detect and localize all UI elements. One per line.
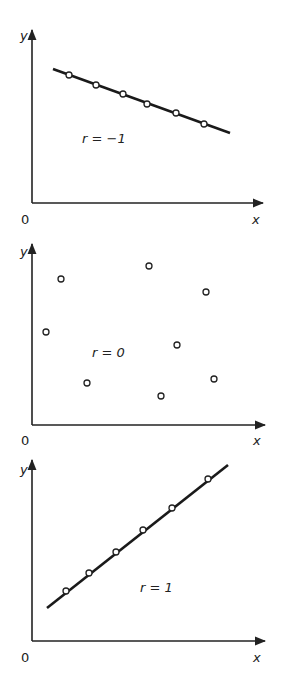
origin-label: 0 xyxy=(21,650,29,665)
data-point xyxy=(113,549,119,555)
data-point xyxy=(158,393,164,399)
y-axis-label: y xyxy=(19,244,28,259)
data-point xyxy=(173,110,179,116)
data-point xyxy=(86,570,92,576)
y-axis-label: y xyxy=(19,462,28,477)
panel-positive-correlation: y x 0 r = 1 xyxy=(19,460,265,665)
data-point xyxy=(84,380,90,386)
correlation-figure: y x 0 r = −1 y x 0 r = 0 y x 0 r = 1 xyxy=(0,0,287,679)
panel-negative-correlation: y x 0 r = −1 xyxy=(19,28,263,227)
data-series xyxy=(43,263,217,399)
origin-label: 0 xyxy=(21,212,29,227)
data-point xyxy=(211,376,217,382)
panel-zero-correlation: y x 0 r = 0 xyxy=(19,244,265,448)
origin-label: 0 xyxy=(21,433,29,448)
data-point xyxy=(66,72,72,78)
correlation-annotation: r = 1 xyxy=(140,580,173,595)
correlation-annotation: r = −1 xyxy=(82,131,126,146)
data-point xyxy=(93,82,99,88)
correlation-annotation: r = 0 xyxy=(92,345,125,360)
data-point xyxy=(63,588,69,594)
regression-line xyxy=(47,465,228,608)
data-point xyxy=(203,289,209,295)
data-point xyxy=(169,505,175,511)
data-point xyxy=(140,527,146,533)
x-axis-label: x xyxy=(251,212,260,227)
data-point xyxy=(43,329,49,335)
x-axis-label: x xyxy=(252,433,261,448)
data-point xyxy=(205,476,211,482)
data-point xyxy=(144,101,150,107)
data-point xyxy=(174,342,180,348)
x-axis-label: x xyxy=(252,650,261,665)
data-point xyxy=(201,121,207,127)
y-axis-label: y xyxy=(19,28,28,43)
data-point xyxy=(120,91,126,97)
data-series xyxy=(47,465,228,608)
data-series xyxy=(53,69,230,133)
data-point xyxy=(146,263,152,269)
data-point xyxy=(58,276,64,282)
